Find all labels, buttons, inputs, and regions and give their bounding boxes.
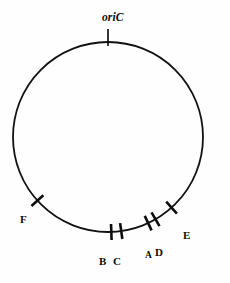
marker-tick-d	[152, 212, 160, 226]
locus-label-d: D	[155, 247, 163, 258]
circular-genome-map-figure: oriC FBCADE	[0, 0, 230, 283]
chromosome-circle	[13, 42, 203, 232]
oric-origin-label: oriC	[102, 12, 124, 24]
locus-label-b: B	[99, 256, 106, 267]
genome-map-canvas	[0, 0, 230, 283]
marker-tick-group	[31, 195, 176, 240]
marker-tick-b	[111, 224, 112, 240]
locus-label-a: A	[145, 251, 152, 261]
marker-tick-a	[145, 216, 152, 231]
locus-label-c: C	[113, 256, 121, 267]
marker-tick-c	[120, 223, 122, 239]
locus-label-f: F	[20, 214, 27, 225]
locus-label-e: E	[183, 230, 190, 241]
